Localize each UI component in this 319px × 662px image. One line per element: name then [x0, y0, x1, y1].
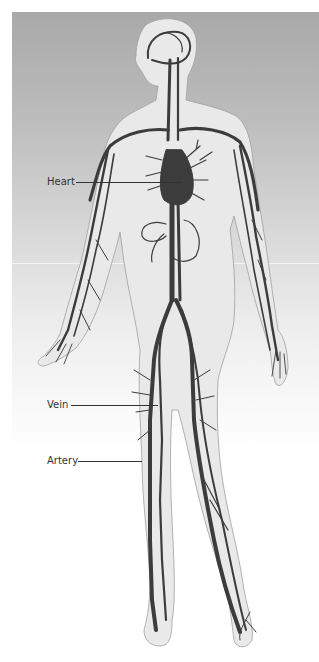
leader-line-artery — [78, 461, 142, 462]
leader-line-heart — [76, 182, 182, 183]
leader-line-vein — [71, 405, 158, 406]
label-heart: Heart — [47, 176, 75, 188]
label-artery: Artery — [47, 455, 78, 467]
circulatory-diagram: Heart Vein Artery — [0, 0, 319, 662]
label-vein: Vein — [47, 399, 68, 411]
human-figure — [0, 0, 319, 662]
